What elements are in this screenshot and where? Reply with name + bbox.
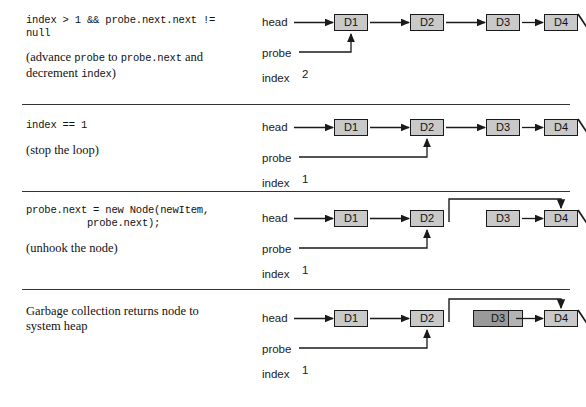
trace-row: Garbage collection returns node to syste…	[0, 290, 586, 407]
pointer-arrows	[258, 196, 586, 288]
prose-text: Garbage collection returns node to	[26, 304, 199, 318]
prose-line: (advance probe to probe.next and	[26, 50, 244, 66]
figure-page: index > 1 && probe.next.next != null (ad…	[0, 0, 586, 407]
linked-list-diagram: head probe index 1 D1 D2 D3 D4	[258, 296, 586, 388]
pointer-arrows	[258, 296, 586, 388]
prose-text: (stop the loop)	[26, 143, 99, 157]
prose-mono: probe	[74, 52, 105, 64]
prose-line: Garbage collection returns node to	[26, 304, 244, 319]
prose-text: system heap	[26, 319, 87, 333]
prose-text: (unhook the node)	[26, 241, 118, 255]
code-line: index > 1 && probe.next.next !=	[26, 14, 244, 27]
pointer-arrows	[258, 105, 586, 197]
prose-text: (advance	[26, 50, 74, 64]
prose-mono: probe.next	[121, 52, 182, 64]
code-line: null	[26, 27, 244, 40]
prose-text: decrement	[26, 66, 81, 80]
prose-text: and	[182, 50, 203, 64]
trace-row: probe.next = new Node(newItem, probe.nex…	[0, 192, 586, 290]
linked-list-diagram: head probe index 2 D1 D2 D3 D4	[258, 0, 586, 92]
row-text-block: index == 1 (stop the loop)	[26, 119, 244, 158]
trace-row: index > 1 && probe.next.next != null (ad…	[0, 0, 586, 105]
prose-line: decrement index)	[26, 66, 244, 82]
row-text-block: probe.next = new Node(newItem, probe.nex…	[26, 204, 244, 256]
prose-line: system heap	[26, 319, 244, 334]
pointer-arrows	[258, 0, 586, 92]
prose-line: (unhook the node)	[26, 241, 244, 256]
linked-list-diagram: head probe index 1 D1 D2 D3 D4	[258, 196, 586, 288]
prose-line: (stop the loop)	[26, 143, 244, 158]
linked-list-diagram: head probe index 1 D1 D2 D3 D4	[258, 105, 586, 197]
prose-text: to	[105, 50, 121, 64]
row-text-block: Garbage collection returns node to syste…	[26, 304, 244, 334]
trace-row: index == 1 (stop the loop) head probe in…	[0, 105, 586, 192]
code-line: probe.next);	[26, 217, 244, 230]
prose-mono: index	[81, 68, 112, 80]
code-line: probe.next = new Node(newItem,	[26, 204, 244, 217]
row-text-block: index > 1 && probe.next.next != null (ad…	[26, 14, 244, 82]
prose-text: )	[112, 66, 116, 80]
code-line: index == 1	[26, 119, 244, 132]
